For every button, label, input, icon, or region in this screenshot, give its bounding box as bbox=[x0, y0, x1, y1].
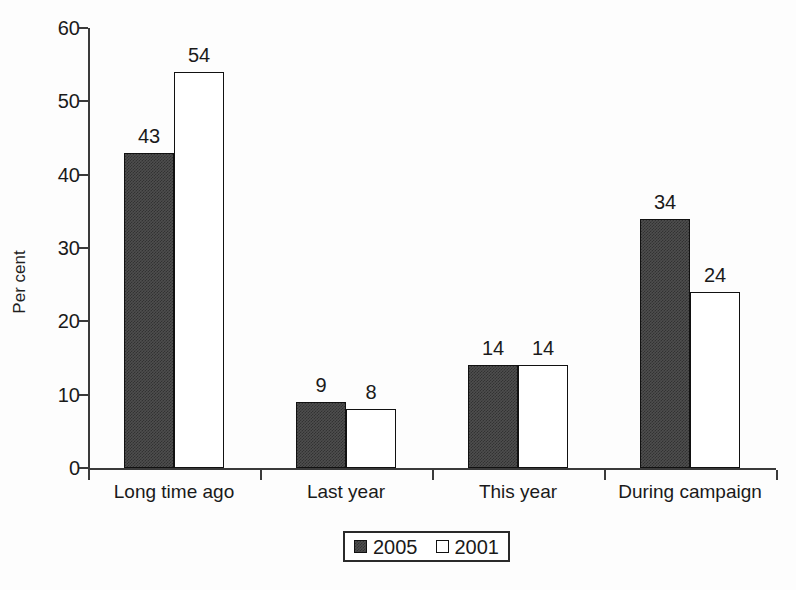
bar bbox=[690, 292, 740, 468]
y-tick-mark bbox=[79, 467, 88, 469]
y-tick-label: 10 bbox=[34, 385, 80, 405]
y-axis-line bbox=[88, 28, 90, 469]
bar bbox=[174, 72, 224, 468]
chart-legend: 20052001 bbox=[343, 531, 510, 562]
chart-figure: Per cent 0102030405060 43549814143424 Lo… bbox=[0, 0, 796, 590]
x-tick-mark bbox=[432, 470, 434, 480]
x-category-label: Last year bbox=[260, 481, 432, 503]
y-tick-mark bbox=[79, 247, 88, 249]
y-tick-label: 60 bbox=[34, 18, 80, 38]
x-category-label: During campaign bbox=[604, 481, 776, 503]
x-category-label: Long time ago bbox=[88, 481, 260, 503]
bar-value-label: 24 bbox=[680, 265, 750, 285]
legend-item: 2001 bbox=[436, 537, 500, 557]
bar-value-label: 54 bbox=[164, 45, 234, 65]
legend-label: 2001 bbox=[455, 537, 500, 557]
y-tick-label: 0 bbox=[34, 458, 80, 478]
y-tick-label: 40 bbox=[34, 165, 80, 185]
bar bbox=[124, 153, 174, 468]
y-tick-mark bbox=[79, 100, 88, 102]
bar bbox=[296, 402, 346, 468]
y-tick-label: 30 bbox=[34, 238, 80, 258]
x-category-label: This year bbox=[432, 481, 604, 503]
bar bbox=[518, 365, 568, 468]
x-tick-mark bbox=[604, 470, 606, 480]
y-tick-label: 50 bbox=[34, 91, 80, 111]
bar bbox=[640, 219, 690, 468]
y-tick-label: 20 bbox=[34, 311, 80, 331]
x-tick-mark bbox=[260, 470, 262, 480]
bar bbox=[346, 409, 396, 468]
bar-value-label: 34 bbox=[630, 192, 700, 212]
y-tick-mark bbox=[79, 174, 88, 176]
legend-label: 2005 bbox=[373, 537, 418, 557]
y-axis-title: Per cent bbox=[10, 222, 30, 342]
bar bbox=[468, 365, 518, 468]
bar-value-label: 8 bbox=[336, 382, 406, 402]
legend-swatch-icon bbox=[436, 540, 449, 553]
legend-swatch-icon bbox=[354, 540, 367, 553]
y-tick-mark bbox=[79, 27, 88, 29]
y-tick-mark bbox=[79, 320, 88, 322]
legend-item: 2005 bbox=[354, 537, 418, 557]
x-tick-mark bbox=[88, 470, 90, 480]
y-tick-mark bbox=[79, 394, 88, 396]
bar-value-label: 14 bbox=[508, 338, 578, 358]
x-tick-mark bbox=[776, 470, 778, 480]
